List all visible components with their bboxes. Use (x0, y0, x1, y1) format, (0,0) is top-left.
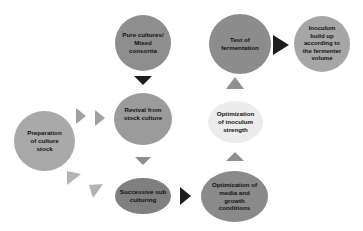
arrow-right-icon (76, 108, 86, 124)
node-label: Optimization of media and growth conditi… (212, 181, 257, 212)
arrow-down-icon (135, 157, 151, 165)
node-pure-cultures: Pure cultures/ Mixed consortia (115, 15, 171, 71)
arrow-right-icon (180, 187, 191, 205)
node-successive-sub-culturing: Successive sub culturing (115, 178, 171, 214)
arrow-diagonal-icon (66, 170, 82, 186)
node-optimization-of-inoculum-strength: Optimization of inoculum strength (208, 101, 263, 143)
arrow-up-icon (226, 77, 244, 89)
node-optimization-of-media: Optimization of media and growth conditi… (201, 171, 268, 222)
arrow-up-icon (226, 152, 244, 161)
arrow-down-icon (134, 76, 152, 85)
node-label: Pure cultures/ Mixed consortia (122, 31, 163, 54)
arrow-diagonal-icon (88, 183, 104, 199)
node-label: Inoculum build up according to the ferme… (303, 25, 341, 63)
node-label: Revival from stock culture (124, 106, 163, 122)
node-revival-from-stock-culture: Revival from stock culture (114, 93, 172, 145)
node-test-of-fermentation: Test of fermentation (209, 14, 271, 74)
node-label: Optimization of inoculum strength (217, 110, 254, 133)
node-label: Test of fermentation (221, 36, 258, 52)
node-inoculum-build-up: Inoculum build up according to the ferme… (294, 16, 350, 72)
node-preparation-of-culture-stock: Preparation of culture stock (14, 111, 75, 171)
node-label: Preparation of culture stock (27, 129, 61, 152)
arrow-right-icon (95, 110, 105, 126)
arrow-right-icon (273, 35, 289, 55)
node-label: Successive sub culturing (120, 188, 166, 204)
